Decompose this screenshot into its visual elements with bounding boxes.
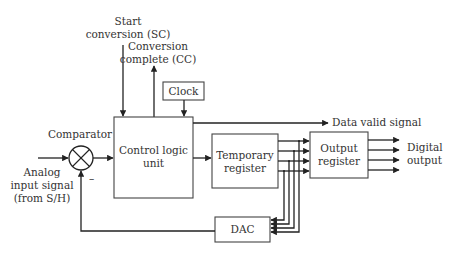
- control-logic-label-2: unit: [143, 157, 165, 169]
- output-register: Output register: [310, 132, 368, 178]
- data-valid-label: Data valid signal: [332, 116, 422, 128]
- start-conversion-label-1: Start: [115, 15, 143, 27]
- analog-input-label-3: (from S/H): [14, 192, 71, 204]
- control-logic-unit: Control logic unit: [114, 117, 193, 198]
- conversion-complete-label-2: complete (CC): [120, 53, 196, 65]
- analog-input-label-2: input signal: [10, 179, 74, 191]
- clock-label: Clock: [169, 85, 200, 97]
- output-register-label-1: Output: [320, 142, 358, 154]
- conversion-complete-signal: Conversion complete (CC): [120, 40, 196, 117]
- adc-block-diagram: Start conversion (SC) Conversion complet…: [0, 0, 454, 255]
- control-logic-label-1: Control logic: [119, 144, 188, 156]
- clock-block: Clock: [163, 82, 204, 116]
- conversion-complete-label-1: Conversion: [128, 40, 188, 52]
- output-register-label-2: register: [318, 155, 361, 167]
- digital-output-label-1: Digital: [407, 141, 443, 153]
- analog-input-label-1: Analog: [22, 166, 60, 178]
- comparator-minus-sign: –: [89, 172, 94, 184]
- temporary-register-label-1: Temporary: [216, 149, 274, 161]
- start-conversion-label-2: conversion (SC): [86, 28, 171, 40]
- temporary-register-box: [212, 134, 278, 188]
- temporary-register-label-2: register: [224, 162, 267, 174]
- comparator-label: Comparator: [48, 128, 113, 140]
- start-conversion-signal: Start conversion (SC): [86, 15, 171, 116]
- digital-output-label-2: output: [407, 154, 443, 166]
- data-valid-signal: Data valid signal: [193, 116, 422, 128]
- temporary-register: Temporary register: [212, 134, 278, 188]
- digital-output-bus: [368, 140, 399, 170]
- dac-label: DAC: [230, 223, 254, 235]
- dac-block: DAC: [215, 217, 270, 242]
